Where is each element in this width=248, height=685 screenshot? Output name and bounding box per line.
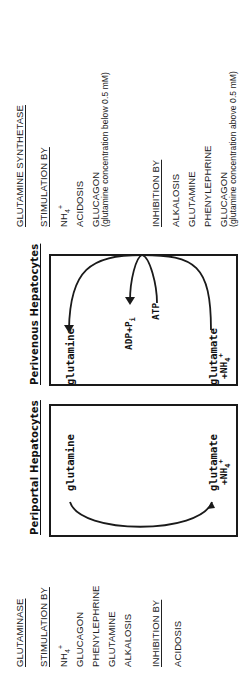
perivenous-reaction-arrows xyxy=(0,0,248,685)
gs-inhibitor-phenylephrine: PHENYLEPHRINE xyxy=(202,145,213,227)
gs-stimulator-nh4: NH4+ xyxy=(58,205,69,227)
gs-stimulator-glucagon-note: (glutamine concentration below 0.5 mM) xyxy=(100,72,111,227)
nh-superscript: + xyxy=(57,205,64,209)
gs-inhibitor-alkalosis: ALKALOSIS xyxy=(170,174,181,227)
nh-label: NH xyxy=(58,213,69,227)
gs-inhibitor-glucagon-note: (glutamine concentration above 0.5 mM) xyxy=(228,71,239,227)
arrowhead-icon xyxy=(64,325,74,333)
gs-inhibition-heading: INHIBITION BY xyxy=(150,160,161,227)
glutamine-metabolism-diagram: GLUTAMINASE STIMULATION BY NH4+ GLUCAGON… xyxy=(0,0,248,685)
gs-stimulation-heading: STIMULATION BY xyxy=(38,147,49,227)
nh-subscript: 4 xyxy=(64,209,71,213)
gs-stimulator-acidosis: ACIDOSIS xyxy=(74,181,85,227)
gs-inhibitor-glutamine: GLUTAMINE xyxy=(186,171,197,227)
arrowhead-icon xyxy=(125,297,135,305)
gs-title: GLUTAMINE SYNTHETASE xyxy=(14,105,25,227)
